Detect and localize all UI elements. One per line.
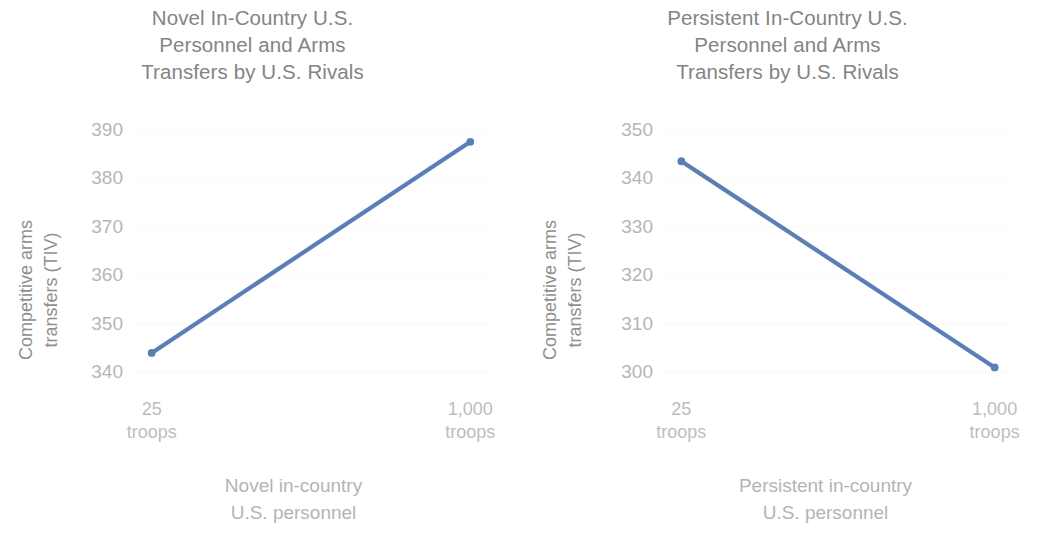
x-tick-labels-novel: 25 troops1,000 troops <box>132 398 490 450</box>
x-axis-title-novel: Novel in-country U.S. personnel <box>0 472 523 526</box>
y-tick-label: 350 <box>91 313 123 335</box>
data-point-marker <box>466 138 474 146</box>
y-tick-label: 340 <box>621 167 653 189</box>
panel-title-persistent: Persistent In-Country U.S. Personnel and… <box>523 4 1046 85</box>
y-axis-title-novel: Competitive arms transfers (TIV) <box>14 150 64 430</box>
series-line <box>681 161 994 367</box>
data-point-marker <box>991 364 999 372</box>
chart-panel-persistent: Persistent In-Country U.S. Personnel and… <box>523 0 1046 536</box>
x-tick-label: 1,000 troops <box>970 398 1020 444</box>
y-tick-label: 340 <box>91 361 123 383</box>
chart-panel-novel: Novel In-Country U.S. Personnel and Arms… <box>0 0 523 536</box>
plot-area-novel: 340350360370380390 <box>132 120 490 382</box>
y-axis-title-persistent: Competitive arms transfers (TIV) <box>538 150 588 430</box>
y-tick-label: 390 <box>91 119 123 141</box>
y-tick-label: 300 <box>621 361 653 383</box>
two-panel-line-chart-figure: Novel In-Country U.S. Personnel and Arms… <box>0 0 1046 536</box>
y-tick-label: 320 <box>621 264 653 286</box>
y-tick-label: 380 <box>91 167 123 189</box>
y-tick-label: 360 <box>91 264 123 286</box>
x-tick-label: 25 troops <box>656 398 706 444</box>
plot-area-persistent: 300310320330340350 <box>662 120 1014 382</box>
y-tick-label: 370 <box>91 216 123 238</box>
y-tick-label: 330 <box>621 216 653 238</box>
x-tick-label: 25 troops <box>127 398 177 444</box>
y-tick-label: 310 <box>621 313 653 335</box>
data-point-marker <box>677 157 685 165</box>
x-tick-labels-persistent: 25 troops1,000 troops <box>662 398 1014 450</box>
x-axis-title-persistent: Persistent in-country U.S. personnel <box>523 472 1046 526</box>
series-line <box>152 142 471 353</box>
x-tick-label: 1,000 troops <box>445 398 495 444</box>
panel-title-novel: Novel In-Country U.S. Personnel and Arms… <box>0 4 523 85</box>
y-tick-label: 350 <box>621 119 653 141</box>
series-line-group <box>132 120 490 382</box>
series-line-group <box>662 120 1014 382</box>
data-point-marker <box>148 349 156 357</box>
